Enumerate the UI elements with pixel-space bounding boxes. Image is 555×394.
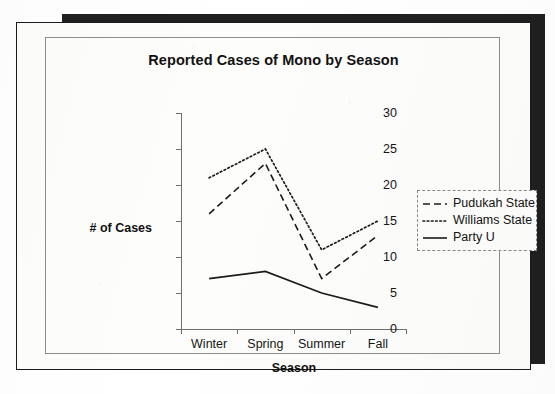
page-shadow-right (531, 14, 545, 364)
plot-area: 051015202530 WinterSpringSummerFall (181, 113, 406, 329)
series-line (209, 271, 378, 307)
legend-line-swatch-icon (422, 232, 448, 244)
chart-title: Reported Cases of Mono by Season (46, 52, 501, 68)
x-tick-label: Summer (298, 337, 345, 351)
legend-line-swatch-icon (422, 198, 448, 210)
legend-item: Williams State (422, 212, 531, 229)
document-page: Reported Cases of Mono by Season # of Ca… (16, 22, 531, 370)
legend-item: Pudukah State (422, 195, 531, 212)
x-axis-title: Season (181, 361, 407, 375)
x-tick-label: Spring (247, 337, 283, 351)
series-line (209, 149, 378, 250)
chart-frame: Reported Cases of Mono by Season # of Ca… (45, 37, 500, 354)
legend-item: Party U (422, 229, 531, 246)
series-line (209, 163, 378, 278)
legend-line-swatch-icon (422, 215, 448, 227)
legend-label: Williams State (453, 214, 532, 227)
y-axis-title: # of Cases (66, 221, 152, 235)
legend-label: Pudukah State (453, 197, 535, 210)
series-lines (181, 113, 421, 333)
x-tick-label: Fall (368, 337, 388, 351)
scanned-page-canvas: Reported Cases of Mono by Season # of Ca… (0, 0, 555, 394)
chart-legend: Pudukah StateWilliams StateParty U (417, 190, 537, 251)
legend-label: Party U (453, 231, 495, 244)
x-tick-label: Winter (191, 337, 227, 351)
